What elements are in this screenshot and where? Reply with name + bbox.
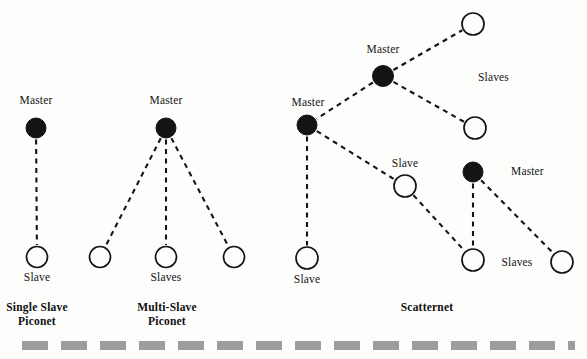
- master-node-m4[interactable]: [373, 66, 394, 87]
- label-master-2: Master: [150, 94, 183, 106]
- slave-node-s3e[interactable]: [462, 249, 484, 271]
- link-m2-s2a: [105, 138, 160, 246]
- group-label-single-slave-piconet: Single Slave Piconet: [6, 300, 68, 328]
- link-s3c-s3e: [413, 195, 464, 251]
- diagram-canvas: [0, 0, 587, 359]
- link-m4-s3a: [393, 30, 462, 70]
- slave-node-s3f[interactable]: [551, 251, 573, 273]
- label-master-5: Master: [511, 165, 544, 177]
- slave-node-s2a[interactable]: [90, 247, 111, 268]
- label-master-3: Master: [292, 96, 325, 108]
- slave-node-s2c[interactable]: [224, 247, 245, 268]
- slave-node-s3b[interactable]: [464, 117, 486, 139]
- link-m5-s3f: [481, 180, 553, 253]
- nodes-layer: [26, 13, 573, 273]
- diagram-figure: MasterSlaveMasterSlavesMasterMasterMaste…: [0, 0, 587, 359]
- links-layer: [36, 30, 553, 253]
- label-master-1: Master: [20, 94, 53, 106]
- label-slave-1: Slave: [24, 271, 50, 283]
- group-label-scatternet: Scatternet: [401, 300, 453, 314]
- slave-node-s3c[interactable]: [394, 175, 416, 197]
- master-node-m2[interactable]: [156, 118, 176, 138]
- label-slaves-3: Slaves: [478, 71, 509, 83]
- link-m1-s1: [36, 139, 37, 245]
- slave-node-s1[interactable]: [27, 247, 48, 268]
- link-m3-s3c: [317, 131, 395, 179]
- link-m4-s3b: [393, 82, 464, 122]
- slave-node-s2b[interactable]: [156, 247, 177, 268]
- slave-node-s3a[interactable]: [462, 13, 484, 35]
- link-m2-s2c: [171, 138, 228, 246]
- master-node-m5[interactable]: [463, 162, 483, 182]
- label-slaves-bottom: Slaves: [502, 256, 533, 268]
- group-label-multi-slave-piconet: Multi-Slave Piconet: [137, 300, 197, 328]
- master-node-m1[interactable]: [26, 118, 46, 138]
- label-master-4: Master: [367, 43, 400, 55]
- label-slave-3c: Slave: [392, 157, 418, 169]
- link-m4-m3: [317, 83, 373, 119]
- label-slaves-2: Slaves: [151, 271, 182, 283]
- slave-node-s3d[interactable]: [296, 247, 318, 269]
- master-node-m3[interactable]: [297, 115, 317, 135]
- label-slave-3d: Slave: [294, 273, 320, 285]
